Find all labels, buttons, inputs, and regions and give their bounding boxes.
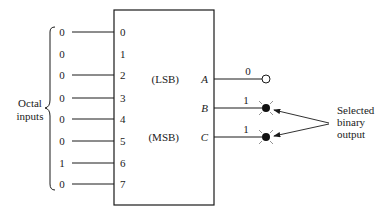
output-prefix: (MSB) [148,131,179,144]
output-name: A [200,73,208,85]
input-value: 0 [59,26,65,38]
pin-label: 4 [120,113,126,125]
led-off-icon [262,75,270,83]
pin-label: 3 [120,92,126,104]
selected-output-callout: Selected binary output [274,104,375,140]
output-value: 1 [243,94,249,106]
callout-line-3: output [337,128,365,140]
pin-label: 7 [120,178,126,190]
pin-label: 6 [120,157,126,169]
input-value: 0 [59,135,65,147]
output-name: C [201,131,209,143]
callout-line-1: Selected [337,104,375,116]
callout-line-2: binary [337,116,366,128]
pin-label: 1 [120,48,126,60]
brace [45,27,55,190]
input-value: 0 [59,92,65,104]
output-name: B [201,102,208,114]
octal-inputs-label: Octal inputs [17,97,44,122]
input-value: 0 [59,178,65,190]
input-value: 0 [59,48,65,60]
arrow-to-b [274,110,329,123]
pin-label: 5 [120,135,126,147]
pin-label: 2 [120,69,126,81]
output-prefix: (LSB) [152,73,180,86]
encoder-box [114,10,214,205]
label-line-2: inputs [17,110,44,122]
output-value: 0 [245,65,251,77]
input-value: 0 [59,113,65,125]
arrow-to-c [274,124,329,136]
label-line-1: Octal [18,97,42,109]
encoder-diagram: Octal inputs 0 0 0 1 0 2 0 3 0 4 0 5 1 6 [0,0,385,218]
output-value: 1 [243,123,249,135]
pin-label: 0 [120,26,126,38]
input-value: 1 [59,157,65,169]
input-value: 0 [59,69,65,81]
